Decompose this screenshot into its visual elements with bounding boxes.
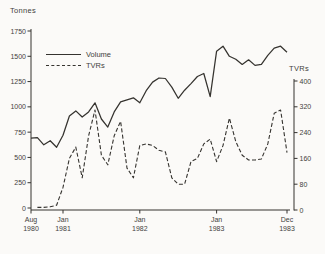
y-right-tick-label: 80 — [300, 181, 308, 188]
y-left-tick-label: 500 — [14, 154, 26, 161]
x-tick-label-month: Jan — [211, 216, 222, 223]
legend-entry-volume: Volume — [46, 49, 111, 60]
y-right-tick-label: 240 — [300, 129, 312, 136]
y-left-tick-label: 0 — [22, 205, 26, 212]
legend-entry-tvrs: TVRs — [46, 60, 111, 71]
series-line-tvrs — [37, 110, 287, 207]
x-tick-label-year: 1983 — [209, 225, 225, 232]
y-right-tick-label: 0 — [300, 207, 304, 214]
chart-canvas: 0250500750100012501500175008016024032040… — [0, 0, 325, 254]
y-left-tick-label: 1750 — [10, 28, 26, 35]
y-left-tick-label: 1000 — [10, 103, 26, 110]
legend: Volume TVRs — [46, 49, 111, 71]
chart-figure: Tonnes TVRs 0250500750100012501500175008… — [0, 0, 325, 254]
x-tick-label-year: 1980 — [23, 225, 39, 232]
legend-label-volume: Volume — [86, 50, 111, 59]
x-tick-label-month: Aug — [25, 216, 38, 224]
x-tick-label-year: 1982 — [132, 225, 148, 232]
left-axis-title: Tonnes — [10, 6, 36, 15]
dashed-line-icon — [46, 65, 81, 66]
x-tick-label-year: 1981 — [55, 225, 71, 232]
legend-label-tvrs: TVRs — [86, 61, 105, 70]
y-left-tick-label: 1250 — [10, 78, 26, 85]
y-right-tick-label: 400 — [300, 78, 312, 85]
y-left-tick-label: 750 — [14, 129, 26, 136]
x-tick-label-month: Jan — [134, 216, 145, 223]
y-right-tick-label: 320 — [300, 103, 312, 110]
x-tick-label-year: 1983 — [279, 225, 295, 232]
right-axis-title: TVRs — [289, 64, 309, 73]
y-right-tick-label: 160 — [300, 155, 312, 162]
y-left-tick-label: 250 — [14, 179, 26, 186]
x-tick-label-month: Dec — [281, 216, 294, 223]
solid-line-icon — [46, 54, 81, 55]
x-tick-label-month: Jan — [57, 216, 68, 223]
y-left-tick-label: 1500 — [10, 53, 26, 60]
